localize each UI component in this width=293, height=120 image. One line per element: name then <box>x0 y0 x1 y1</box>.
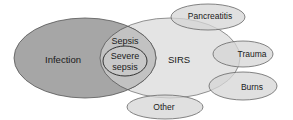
pancreatitis-label: Pancreatitis <box>188 11 232 21</box>
venn-diagram: Infection SIRS Sepsis Severe sepsis Panc… <box>0 0 293 120</box>
other-label: Other <box>153 102 174 112</box>
severe-sepsis-label-line2: sepsis <box>112 62 138 72</box>
burns-label: Burns <box>241 82 263 92</box>
sirs-label: SIRS <box>168 54 190 65</box>
trauma-label: Trauma <box>238 49 267 59</box>
severe-sepsis-label-line1: Severe <box>111 51 140 61</box>
sepsis-label: Sepsis <box>111 36 139 46</box>
infection-label: Infection <box>45 54 81 65</box>
